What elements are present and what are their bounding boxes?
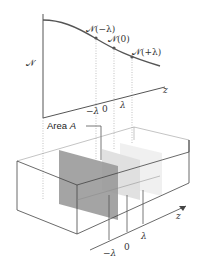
plane-label-zero: 0: [124, 242, 130, 252]
plane-label-neg: −λ: [103, 248, 116, 258]
point-label-neg: 𝒩(−λ): [86, 24, 115, 34]
area-leader-line: [86, 126, 101, 160]
area-label: Area A: [47, 120, 76, 131]
area-label-group: Area A: [47, 120, 101, 160]
box-edge-back-top-right: [134, 127, 189, 140]
z-axis-label: z: [162, 85, 168, 95]
plane-label-pos: λ: [140, 231, 147, 241]
x-tick-zero: 0: [102, 104, 108, 114]
volume-box: z −λ 0 λ: [17, 127, 189, 258]
x-tick-pos: λ: [119, 100, 126, 110]
diagram: 𝒩 z 𝒩(−λ) 𝒩(0) 𝒩(+λ) −λ 0 λ Area A: [0, 0, 201, 267]
area-label-var: A: [69, 120, 76, 131]
box-z-label: z: [175, 211, 181, 221]
point-zero: [112, 46, 115, 49]
box-edge-bottom-left: [17, 210, 77, 234]
x-tick-neg: −λ: [86, 106, 99, 116]
point-label-pos: 𝒩(+λ): [132, 47, 161, 57]
point-neg-lambda: [94, 36, 97, 39]
area-label-prefix: Area: [47, 120, 70, 131]
point-label-zero: 𝒩(0): [108, 34, 130, 44]
y-axis-label: 𝒩: [26, 58, 36, 68]
